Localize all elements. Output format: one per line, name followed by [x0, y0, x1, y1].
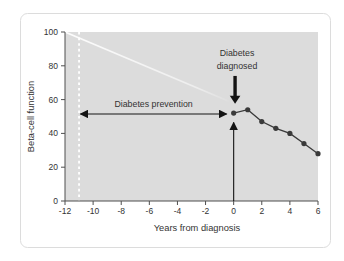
figure: 020406080100 -12-10-8-6-4-20246 Diabetes… — [0, 0, 344, 261]
x-tick-label: -8 — [117, 206, 125, 216]
beta-cell-function-chart: 020406080100 -12-10-8-6-4-20246 Diabetes… — [0, 0, 344, 261]
y-tick-label: 60 — [49, 95, 59, 105]
data-point — [245, 107, 250, 112]
x-tick-label: -6 — [146, 206, 154, 216]
prevention-label: Diabetes prevention — [114, 99, 192, 109]
x-tick-label: 6 — [316, 206, 321, 216]
diagnosed-label-line1: Diabetes — [220, 48, 255, 58]
data-point — [231, 111, 236, 116]
x-tick-label: -4 — [174, 206, 182, 216]
data-point — [259, 119, 264, 124]
diagnosed-label-line2: diagnosed — [217, 61, 258, 71]
y-tick-label: 20 — [49, 162, 59, 172]
x-tick-label: 0 — [231, 206, 236, 216]
x-tick-label: 2 — [259, 206, 264, 216]
plot-area — [65, 32, 318, 201]
y-tick-label: 80 — [49, 61, 59, 71]
y-tick-label: 40 — [49, 128, 59, 138]
data-point — [315, 151, 320, 156]
x-axis-title: Years from diagnosis — [154, 223, 241, 233]
y-tick-label: 0 — [53, 196, 58, 206]
x-tick-label: -10 — [87, 206, 100, 216]
y-tick-label: 100 — [44, 27, 58, 37]
x-tick-label: -2 — [202, 206, 210, 216]
data-point — [273, 126, 278, 131]
x-tick-label: 4 — [288, 206, 293, 216]
y-axis-title: Beta-cell function — [26, 81, 36, 152]
data-point — [301, 141, 306, 146]
data-point — [287, 131, 292, 136]
x-tick-label: -12 — [59, 206, 72, 216]
